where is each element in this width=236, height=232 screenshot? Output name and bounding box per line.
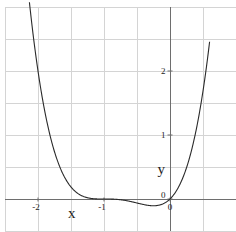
function-curve [29,2,209,205]
x-tick-label: -1 [98,202,106,212]
x-tick-label: 0 [168,202,173,212]
axes [5,7,236,231]
grid [5,7,236,232]
function-plot: x y -2-10012 [0,0,236,232]
y-tick-label: 0 [161,190,166,200]
curve-layer [29,2,209,205]
x-axis-label: x [68,205,76,221]
y-axis-label: y [158,161,166,177]
y-tick-label: 2 [161,66,166,76]
labels: x y -2-10012 [32,66,173,221]
x-tick-label: -2 [32,202,40,212]
y-tick-label: 1 [161,130,166,140]
